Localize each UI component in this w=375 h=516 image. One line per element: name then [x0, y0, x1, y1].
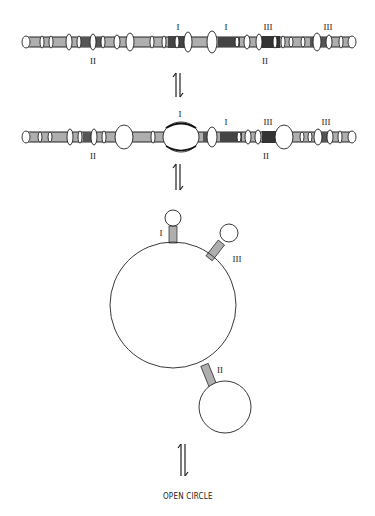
region-label: III	[322, 117, 331, 127]
region-label: III	[264, 117, 273, 127]
stage1-linear-duplex: IIIIIIIIIIII	[22, 22, 356, 66]
region-label: II	[263, 151, 269, 161]
region-label: III	[324, 22, 333, 32]
region-label: I	[225, 117, 228, 127]
equilibrium-arrow-1	[173, 73, 183, 97]
region-label: I	[225, 22, 228, 32]
stage3-circle-with-hairpins: IIIIII	[110, 210, 251, 433]
dna-denaturation-diagram: IIIIIIIIIIII	[0, 0, 375, 516]
equilibrium-arrow-3	[178, 444, 188, 476]
stage2-partially-denatured: IIIIIIIIIIII	[22, 109, 356, 161]
region-label: II	[262, 56, 268, 66]
equilibrium-arrow-2	[173, 164, 183, 190]
region-label: II	[217, 365, 223, 375]
region-label: I	[179, 109, 182, 119]
region-label: III	[264, 22, 273, 32]
region-label: I	[177, 22, 180, 32]
region-label: II	[90, 56, 96, 66]
region-label: I	[160, 228, 163, 238]
region-label: III	[233, 254, 242, 264]
region-label: II	[90, 151, 96, 161]
caption-open-circle: OPEN CIRCLE	[163, 492, 213, 501]
